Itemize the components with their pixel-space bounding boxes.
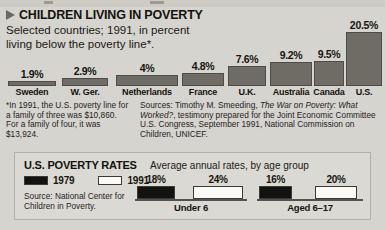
bar-value-label: 9.5%: [318, 48, 341, 60]
bar-value-label: 7.6%: [236, 53, 259, 65]
panel-title: U.S. POVERTY RATES: [24, 159, 137, 171]
age-group-label: Under 6: [174, 202, 208, 213]
bar-1979-under-6: [137, 186, 175, 199]
bar-value-label: 2.9%: [74, 65, 97, 77]
age-group-label: Aged 6–17: [287, 202, 333, 213]
bar-category-label: Sweden: [16, 87, 49, 97]
sources-suffix: , testimony prepared for the Joint Econo…: [140, 110, 376, 139]
bar-rect: [8, 81, 56, 86]
bar-value-label: 24%: [193, 174, 243, 185]
country-bar-u-k: 7.6%U.K.: [228, 66, 266, 86]
bar-rect: [62, 78, 108, 86]
group-baseline: [257, 199, 363, 201]
us-poverty-rates-panel: U.S. POVERTY RATES Average annual rates,…: [14, 152, 371, 220]
sources-text: Sources: Timothy M. Smeeding, The War on…: [140, 101, 376, 139]
cropped-row-artifact: [0, 0, 385, 7]
bar-rect: [228, 66, 266, 86]
country-poverty-bar-chart: 1.9%Sweden2.9%W. Ger.4%Netherlands4.8%Fr…: [0, 28, 385, 94]
bar-value-label: 20.5%: [350, 19, 378, 31]
bar-category-label: U.S.: [356, 87, 373, 97]
bar-value-label: 9.2%: [280, 49, 303, 61]
legend-label-1979: 1979: [53, 175, 74, 186]
bar-value-label: 16%: [259, 174, 292, 185]
panel-subtitle: Average annual rates, by age group: [150, 160, 309, 171]
bar-rect: [182, 73, 224, 86]
bar-1991-under-6: [193, 186, 243, 199]
country-bar-w-ger: 2.9%W. Ger.: [62, 78, 108, 86]
bar-category-label: Australia: [273, 87, 310, 97]
country-bar-sweden: 1.9%Sweden: [8, 81, 56, 86]
panel-source-text: Source: National Center for Children in …: [24, 192, 142, 211]
bar-rect: [116, 75, 178, 86]
chart-legend: 1979 1991: [24, 175, 149, 186]
sources-prefix: Sources: Timothy M. Smeeding,: [140, 100, 260, 110]
country-bar-netherlands: 4%Netherlands: [116, 75, 178, 86]
bar-1991-aged-6-17: [315, 186, 357, 199]
bar-value-label: 20%: [315, 174, 357, 185]
bar-category-label: W. Ger.: [70, 87, 99, 97]
bar-1979-aged-6-17: [259, 186, 292, 199]
country-bar-canada: 9.5%Canada: [314, 61, 344, 86]
section-header: CHILDREN LIVING IN POVERTY: [6, 8, 203, 22]
bar-rect: [270, 62, 312, 86]
bar-category-label: France: [189, 87, 217, 97]
triangle-right-icon: [6, 10, 15, 20]
bar-rect: [346, 32, 382, 86]
bar-value-label: 1.9%: [21, 68, 44, 80]
legend-swatch-1991: [98, 176, 122, 185]
footnote-text: *In 1991, the U.S. poverty line for a fa…: [6, 101, 130, 139]
bar-rect: [314, 61, 344, 86]
page-title: CHILDREN LIVING IN POVERTY: [19, 8, 203, 22]
bar-category-label: U.K.: [238, 87, 255, 97]
country-bar-australia: 9.2%Australia: [270, 62, 312, 86]
legend-swatch-1979: [24, 176, 48, 185]
bar-value-label: 4%: [140, 62, 155, 74]
bar-category-label: Netherlands: [122, 87, 172, 97]
bar-category-label: Canada: [313, 87, 344, 97]
bar-value-label: 4.8%: [192, 60, 215, 72]
country-bar-france: 4.8%France: [182, 73, 224, 86]
group-baseline: [135, 199, 247, 201]
country-bar-u-s: 20.5%U.S.: [346, 32, 382, 86]
bar-value-label: 18%: [137, 174, 175, 185]
